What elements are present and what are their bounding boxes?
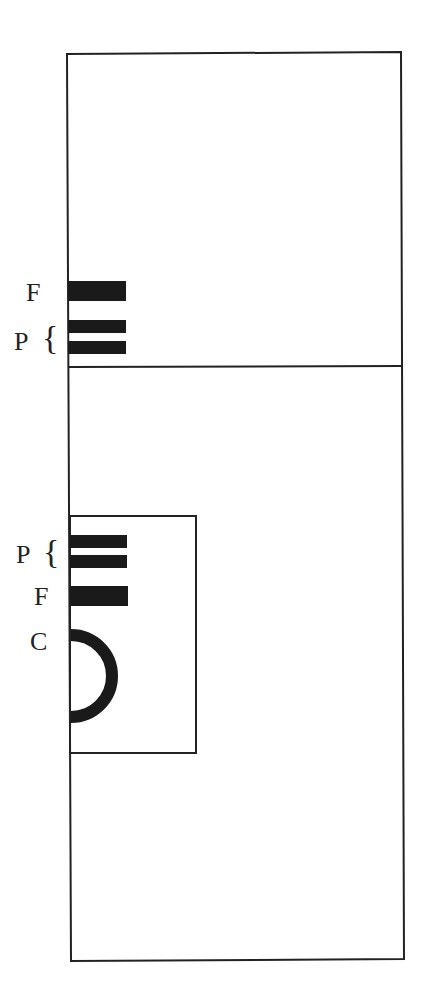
upper-markers — [68, 281, 126, 354]
lower-markers — [70, 535, 128, 717]
upper-p-brace-icon: { — [42, 319, 58, 356]
lower-c-label: C — [30, 627, 47, 656]
lower-p-label: P — [16, 540, 30, 569]
lower-p-brace-icon: { — [43, 533, 59, 570]
upper-p-label: P — [14, 327, 28, 356]
lower-f-label: F — [34, 582, 48, 611]
lower-p-bar-2 — [70, 555, 127, 568]
lower-c-half-ring — [71, 635, 112, 717]
lower-p-bar-1 — [70, 535, 127, 548]
upper-f-label: F — [26, 278, 40, 307]
outer-enclosure — [67, 52, 404, 961]
upper-p-bar-2 — [68, 341, 126, 354]
compartment-divider — [68, 366, 402, 367]
diagram-canvas: F P { P { F C — [0, 0, 426, 1000]
lower-f-bar — [70, 586, 128, 606]
upper-f-bar — [68, 281, 126, 301]
upper-p-bar-1 — [68, 320, 126, 333]
